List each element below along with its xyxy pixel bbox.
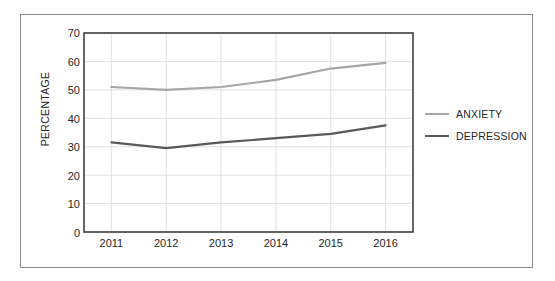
legend-label: DEPRESSION xyxy=(456,130,527,142)
plot-frame xyxy=(84,33,413,232)
legend-swatch-icon xyxy=(425,135,449,137)
plot-border xyxy=(84,33,413,232)
legend-swatch-icon xyxy=(425,113,449,115)
x-tick-label: 2014 xyxy=(246,237,306,249)
x-tick-label: 2011 xyxy=(81,237,141,249)
series-line-depression xyxy=(111,125,385,148)
x-axis-tick-labels: 201120122013201420152016 xyxy=(21,237,534,259)
x-tick-label: 2012 xyxy=(136,237,196,249)
series-line-anxiety xyxy=(111,63,385,90)
series-lines xyxy=(111,63,385,148)
x-tick-label: 2013 xyxy=(191,237,251,249)
chart-legend: ANXIETYDEPRESSION xyxy=(425,103,535,147)
x-tick-label: 2015 xyxy=(301,237,361,249)
x-tick-label: 2016 xyxy=(356,237,416,249)
legend-item[interactable]: DEPRESSION xyxy=(425,125,535,147)
chart-figure: PERCENTAGE 70 60 50 40 30 20 10 0 201120… xyxy=(20,14,533,268)
gridlines xyxy=(84,33,413,232)
legend-label: ANXIETY xyxy=(456,108,502,120)
legend-item[interactable]: ANXIETY xyxy=(425,103,535,125)
